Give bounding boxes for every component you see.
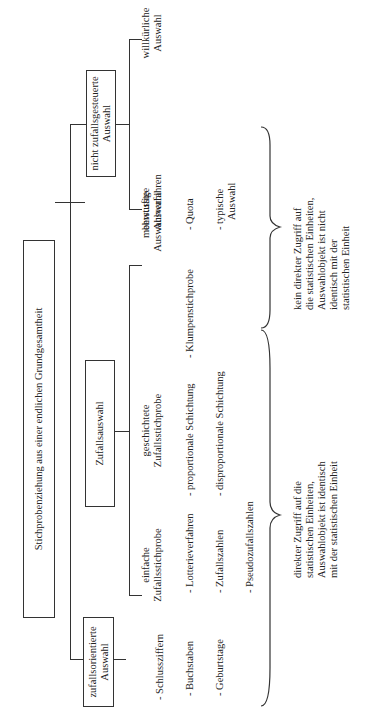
list-item: - typische Auswahl [214,183,238,230]
brace-indirect-icon [258,125,284,330]
branch-label-2: Auswahl [99,643,111,680]
list-item: - Quota [184,198,196,230]
trunk-connector [70,124,71,660]
list-item: - Lotterieverfahren [184,513,196,593]
list-item: - proportionale Schichtung [184,383,196,496]
list-item: - Klumpenstichprobe [184,269,196,358]
child-willkuerliche: willkürliche Auswahl [140,3,164,63]
brace-direct-icon [258,328,284,708]
list-item: - Zufallszahlen [214,530,226,593]
list-item: - Schlussziffern [154,634,166,700]
list-item: - disproportionale Schichtung [214,371,226,496]
branch-label-2: Auswahl [101,105,113,142]
sampling-diagram: Stichprobenziehung aus einer endlichen G… [0,0,386,728]
child-geschichtete: geschichtete Zufallsstichprobe [140,378,164,483]
branch-box-zufallsauswahl: Zufallsauswahl [85,360,115,507]
b1-children-bar [129,265,130,596]
drop-b2 [70,124,86,125]
branch-label: Zufallsauswahl [94,401,106,465]
b1-drop-2 [129,265,142,266]
branch-label: zufallsorientierte [87,626,99,697]
b0-connector [114,659,126,660]
list-item: - Geburtstage [214,639,226,696]
list-item: - Pseudozufallszahlen [244,501,256,593]
branch-box-zufallsorientiert: zufallsorientierte Auswahl [83,617,114,707]
child-bewusste: bewusste Auswahl [140,192,164,231]
root-label: Stichprobenziehung aus einer endlichen G… [33,308,45,551]
root-box: Stichprobenziehung aus einer endlichen G… [23,240,55,618]
b1-stem [115,431,130,432]
b2-stem [116,124,130,125]
branch-label: nicht zufallsgesteuerte [89,76,101,170]
note-indirect: kein direkter Zugriff auf die statistisc… [292,140,352,310]
root-stem [55,202,85,203]
note-direct: direkter Zugriff auf die statistischen E… [292,408,340,578]
branch-box-nicht-zufallsgesteuert: nicht zufallsgesteuerte Auswahl [86,70,116,177]
child-einfache: einfache Zufallsstichprobe [140,520,164,610]
b2-children-bar [129,39,130,210]
list-item: - Buchstaben [184,641,196,696]
